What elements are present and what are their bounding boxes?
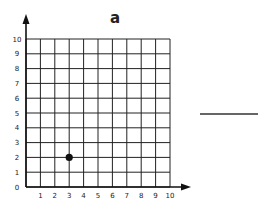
x-tick-label: 6 xyxy=(110,192,115,200)
y-tick-label: 7 xyxy=(15,80,19,88)
y-axis-arrow-icon xyxy=(23,14,30,24)
y-tick-label: 2 xyxy=(15,154,19,162)
y-tick-label: 0 xyxy=(15,184,19,192)
x-tick-label: 4 xyxy=(81,192,86,200)
y-tick-label: 8 xyxy=(15,65,19,73)
x-tick-label: 5 xyxy=(96,192,100,200)
x-tick-label: 9 xyxy=(153,192,157,200)
y-tick-label: 10 xyxy=(13,36,22,44)
x-tick-label: 7 xyxy=(125,192,129,200)
grid-lines xyxy=(26,39,170,187)
x-tick-label: 1 xyxy=(38,192,42,200)
x-tick-label: 2 xyxy=(53,192,57,200)
y-tick-label: 3 xyxy=(15,139,19,147)
y-tick-labels: 012345678910 xyxy=(13,36,22,192)
data-points xyxy=(66,154,73,161)
x-tick-label: 8 xyxy=(139,192,143,200)
y-tick-label: 4 xyxy=(15,124,20,132)
y-tick-label: 6 xyxy=(15,95,20,103)
x-axis-arrow-icon xyxy=(181,184,191,191)
axes xyxy=(23,14,192,191)
plotted-point xyxy=(66,154,73,161)
y-tick-label: 1 xyxy=(15,169,19,177)
diagram-title: a xyxy=(110,9,120,27)
coordinate-grid-diagram: a 012345678910 12345678910 xyxy=(0,0,265,205)
x-tick-label: 3 xyxy=(67,192,71,200)
y-tick-label: 5 xyxy=(15,110,19,118)
x-tick-label: 10 xyxy=(166,192,175,200)
x-tick-labels: 12345678910 xyxy=(38,192,174,200)
y-tick-label: 9 xyxy=(15,50,19,58)
